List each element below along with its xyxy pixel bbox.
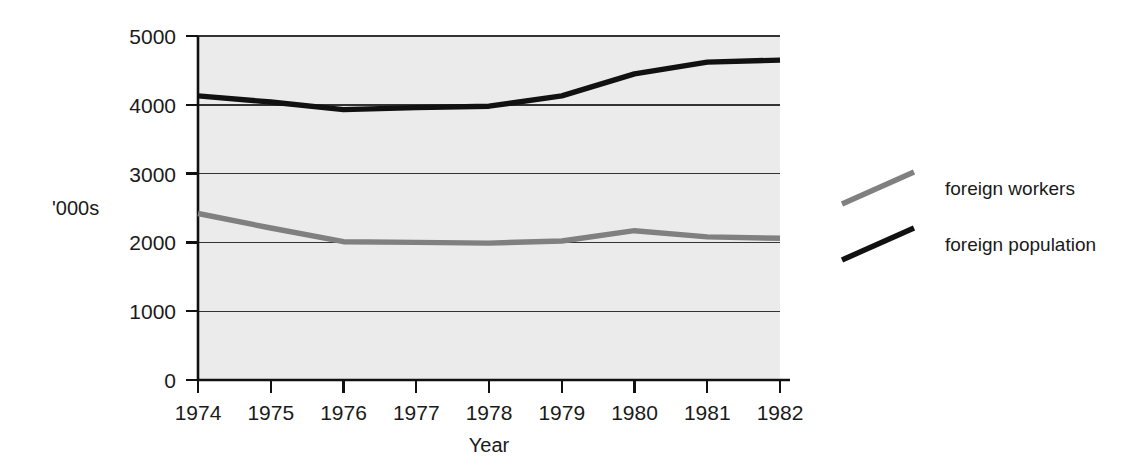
y-tick-label: 0 — [164, 369, 176, 392]
y-tick-label: 3000 — [129, 163, 176, 186]
x-tick-label: 1976 — [320, 401, 367, 424]
chart-figure: 010002000300040005000 197419751976197719… — [0, 0, 1122, 468]
legend: foreign workersforeign population — [842, 172, 1096, 260]
x-tick-label: 1977 — [393, 401, 440, 424]
y-tick-label: 2000 — [129, 231, 176, 254]
x-tick-marks — [198, 380, 780, 393]
x-tick-labels: 197419751976197719781979198019811982 — [175, 401, 804, 424]
x-axis-title: Year — [469, 434, 510, 456]
x-tick-label: 1981 — [684, 401, 731, 424]
line-chart-svg: 010002000300040005000 197419751976197719… — [0, 0, 1122, 468]
x-tick-label: 1980 — [611, 401, 658, 424]
x-tick-label: 1974 — [175, 401, 222, 424]
y-tick-marks — [186, 36, 198, 380]
y-axis-unit-label: '000s — [52, 197, 99, 219]
x-tick-label: 1975 — [247, 401, 294, 424]
legend-label-foreign-workers: foreign workers — [945, 178, 1075, 199]
x-tick-label: 1979 — [538, 401, 585, 424]
x-tick-label: 1982 — [757, 401, 804, 424]
plot-area-background — [198, 36, 780, 380]
legend-swatch-foreign-population — [842, 228, 914, 260]
y-tick-labels: 010002000300040005000 — [129, 25, 176, 392]
legend-swatch-foreign-workers — [842, 172, 914, 204]
y-tick-label: 5000 — [129, 25, 176, 48]
legend-label-foreign-population: foreign population — [945, 234, 1096, 255]
y-tick-label: 4000 — [129, 94, 176, 117]
y-tick-label: 1000 — [129, 300, 176, 323]
x-tick-label: 1978 — [466, 401, 513, 424]
